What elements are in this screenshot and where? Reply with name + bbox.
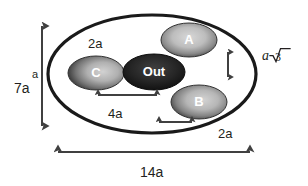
top-node-dimension-label: 2a	[88, 37, 102, 50]
node-out-label: Out	[131, 65, 177, 78]
height-dimension-label: 7a	[14, 81, 30, 95]
radius-dimension-label: a	[32, 69, 38, 80]
node-b-label: B	[188, 95, 210, 108]
sqrt-coefficient: a	[262, 48, 269, 63]
c-out-dimension-label: 4a	[108, 107, 122, 120]
width-dimension-label: 14a	[140, 165, 163, 179]
b-dimension-label: 2a	[218, 127, 232, 140]
node-a-label: A	[178, 33, 200, 46]
sqrt-radicand: 3	[275, 51, 281, 63]
diagram-canvas: A B C Out 7a a 2a 4a 2a 14a a3	[0, 0, 308, 186]
node-c-label: C	[85, 66, 107, 79]
diagram-svg	[0, 0, 308, 186]
sqrt-dimension-label: a3	[262, 47, 291, 63]
